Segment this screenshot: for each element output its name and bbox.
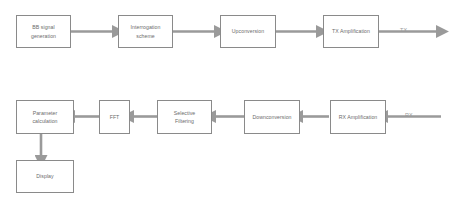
block-upconversion[interactable]: Upconversion	[220, 15, 276, 48]
block-selective-filtering[interactable]: Selective Filtering	[157, 100, 212, 134]
block-fft[interactable]: FFT	[99, 100, 130, 134]
block-rx-amplification[interactable]: RX Amplification	[330, 100, 386, 134]
tx-port-label: TX	[400, 28, 407, 33]
block-downconversion[interactable]: Downconversion	[244, 100, 300, 134]
rx-port-label: RX	[405, 113, 413, 118]
block-display[interactable]: Display	[16, 160, 74, 193]
block-tx-amplification[interactable]: TX Amplification	[323, 15, 379, 48]
block-parameter-calculation[interactable]: Parameter calculation	[16, 100, 74, 134]
block-diagram-canvas: BB signal generation Interrogation schem…	[0, 0, 452, 198]
block-bb-signal-generation[interactable]: BB signal generation	[16, 15, 71, 48]
block-interrogation-scheme[interactable]: Interrogation scheme	[118, 15, 173, 48]
